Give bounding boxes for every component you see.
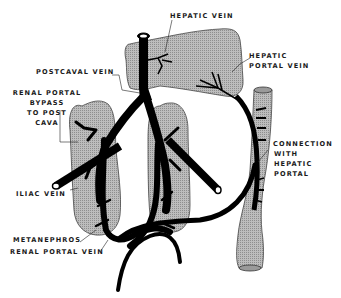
label-hepatic-vein: HEPATIC VEIN [170, 12, 234, 21]
venous-system-diagram: HEPATIC VEIN HEPATIC PORTAL VEIN POSTCAV… [0, 0, 341, 298]
left-iliac-opening [53, 183, 60, 189]
label-connection-line3: HEPATIC [274, 160, 312, 169]
label-postcaval-vein: POSTCAVAL VEIN [36, 68, 114, 77]
label-iliac-vein: ILIAC VEIN [16, 190, 66, 199]
intestine [237, 90, 272, 268]
label-renal-portal-bypass-line2: BYPASS [12, 99, 82, 108]
intestine-bottom-opening [239, 265, 261, 271]
label-connection-line4: PORTAL [274, 170, 309, 179]
label-renal-portal-vein: RENAL PORTAL VEIN [10, 248, 104, 257]
intestine-top-opening [254, 87, 272, 93]
right-iliac-opening [215, 187, 221, 194]
label-renal-portal-bypass-line4: CAVA [12, 119, 82, 128]
postcaval-lumen [140, 34, 147, 37]
label-connection-line2: WITH [274, 150, 298, 159]
label-connection-line1: CONNECTION [273, 140, 333, 149]
label-metanephros: METANEPHROS [13, 236, 81, 245]
label-renal-portal-bypass-line3: TO POST [12, 109, 82, 118]
label-renal-portal-bypass-line1: RENAL PORTAL [12, 89, 82, 98]
label-hepatic-portal-vein-line2: PORTAL VEIN [249, 62, 309, 71]
label-hepatic-portal-vein-line1: HEPATIC [249, 52, 287, 61]
